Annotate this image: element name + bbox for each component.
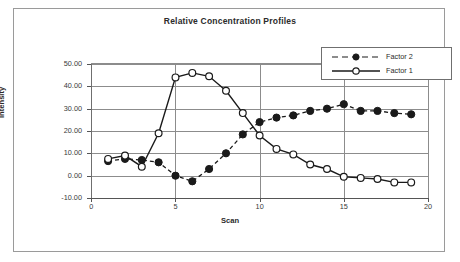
legend-entry-factor-2[interactable]: Factor 2: [322, 50, 453, 64]
x-axis-tick-label: 15: [329, 202, 359, 211]
y-axis-tick-label: -10.00: [40, 193, 82, 202]
x-axis-title: Scan: [0, 216, 460, 225]
chart-screenshot: Relative Concentration Profiles Intensit…: [0, 0, 460, 262]
y-axis-tick-label: 30.00: [40, 104, 82, 113]
x-axis-tick-label: 5: [160, 202, 190, 211]
legend-entry-factor-1[interactable]: Factor 1: [322, 64, 453, 78]
legend-swatch-solid-open-circle: [330, 64, 382, 78]
y-axis-tick-label: 40.00: [40, 81, 82, 90]
x-axis-tick-label: 0: [76, 202, 106, 211]
y-axis-tick-label: 10.00: [40, 148, 82, 157]
y-axis-tick-label: 50.00: [40, 59, 82, 68]
legend-label-factor-1: Factor 1: [386, 66, 413, 75]
plot-area: [91, 63, 428, 198]
y-axis-tick-label: 0.00: [40, 171, 82, 180]
chart-legend[interactable]: Factor 2 Factor 1: [321, 47, 452, 80]
plot-right-border: [428, 63, 429, 198]
legend-swatch-dashed-filled-circle: [330, 50, 382, 64]
x-axis-tick-label: 20: [413, 202, 443, 211]
chart-title: Relative Concentration Profiles: [0, 16, 460, 26]
y-axis-title: Intensity: [0, 87, 6, 118]
y-axis-tick-label: 20.00: [40, 126, 82, 135]
legend-label-factor-2: Factor 2: [386, 52, 413, 61]
x-axis-tick-label: 10: [245, 202, 275, 211]
x-axis-line: [91, 198, 428, 199]
